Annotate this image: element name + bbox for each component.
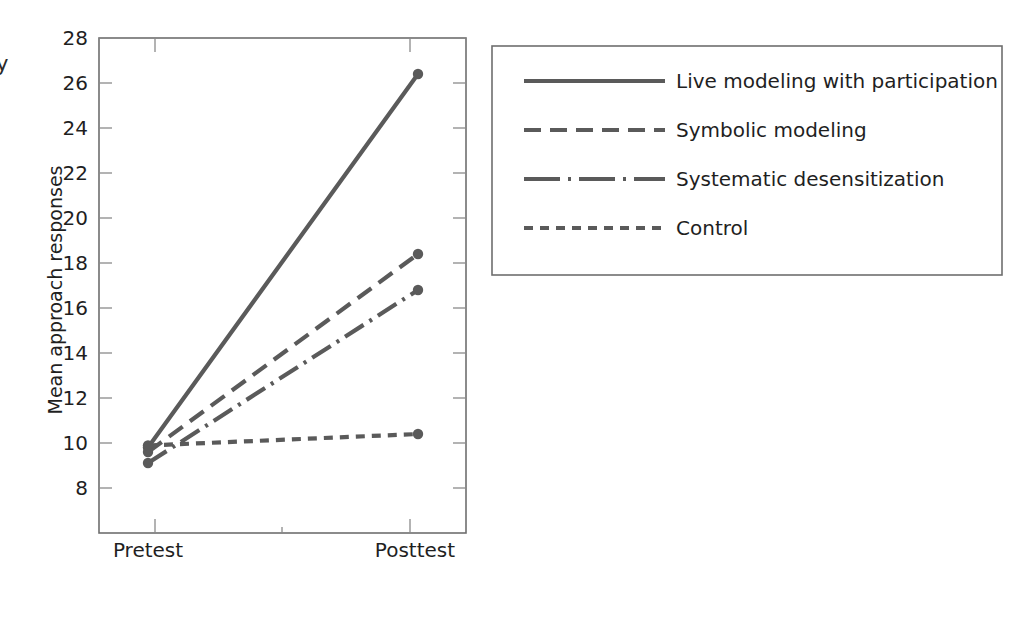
y-tick-label: 8: [75, 476, 88, 500]
legend-item-control: Control: [524, 216, 748, 240]
legend-label: Control: [676, 216, 748, 240]
series-line-solid: [148, 74, 418, 448]
legend: Live modeling with participation Symboli…: [492, 46, 1002, 275]
data-point: [413, 429, 423, 439]
y-tick-label: 16: [63, 296, 88, 320]
x-tick-label-posttest: Posttest: [375, 538, 455, 562]
line-chart-figure: 28 26 24 22 20 18 16 14 12 10 8 Mean app…: [0, 0, 1035, 617]
y-axis-title: Mean approach responses: [44, 166, 66, 415]
x-tick-labels: Pretest Posttest: [113, 538, 455, 562]
data-point: [143, 458, 153, 468]
y-tick-label: 22: [63, 161, 88, 185]
data-point: [143, 440, 153, 450]
data-point: [413, 249, 423, 259]
y-tick-label: 14: [63, 341, 88, 365]
legend-item-live-modeling-with-participation: Live modeling with participation: [524, 69, 998, 93]
series-symbolic-modeling: [143, 249, 423, 457]
series-line-dashed: [148, 254, 418, 452]
legend-label: Systematic desensitization: [676, 167, 944, 191]
legend-label: Symbolic modeling: [676, 118, 867, 142]
legend-item-systematic-desensitization: Systematic desensitization: [524, 167, 944, 191]
data-point: [413, 69, 423, 79]
figure-root: y: [0, 0, 1035, 617]
y-tick-label: 18: [63, 251, 88, 275]
y-tick-label: 12: [63, 386, 88, 410]
x-axis-ticks: [155, 38, 410, 533]
legend-label: Live modeling with participation: [676, 69, 998, 93]
legend-item-symbolic-modeling: Symbolic modeling: [524, 118, 867, 142]
series-live-modeling-with-participation: [143, 69, 423, 453]
data-point: [413, 285, 423, 295]
y-tick-label: 24: [63, 116, 88, 140]
y-tick-labels: 28 26 24 22 20 18 16 14 12 10 8: [63, 26, 88, 500]
y-tick-label: 20: [63, 206, 88, 230]
x-tick-label-pretest: Pretest: [113, 538, 183, 562]
y-tick-label: 10: [63, 431, 88, 455]
y-tick-label: 26: [63, 71, 88, 95]
y-tick-label: 28: [63, 26, 88, 50]
